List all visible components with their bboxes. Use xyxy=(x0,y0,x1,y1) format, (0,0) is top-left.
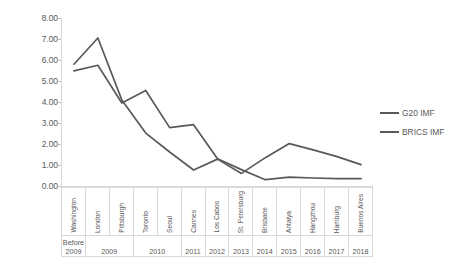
legend-swatch-brics-imf xyxy=(380,131,399,133)
y-axis-labels: 8.007.006.005.004.003.002.001.000.00 xyxy=(14,0,58,269)
y-axis-tick-label: 8.00 xyxy=(22,14,58,23)
y-axis-tick-label: 2.00 xyxy=(22,140,58,149)
x-axis-category-cell: Antalya xyxy=(277,188,301,236)
x-axis-category-cell: Seoul xyxy=(157,188,181,236)
x-axis-year-group-label: Before 2009 xyxy=(62,236,86,257)
series-line-g20-imf xyxy=(74,65,361,179)
y-axis-tick-label: 4.00 xyxy=(22,98,58,107)
x-axis-category-label: Toronto xyxy=(142,211,149,233)
category-label-row: WashingtonLondonPittsburghTorontoSeoulCa… xyxy=(62,188,373,236)
x-axis-category-label: Pittsburgh xyxy=(118,203,125,233)
y-axis-tick-mark xyxy=(58,18,61,19)
year-group-row: Before 200920092010201120122013201420152… xyxy=(62,236,373,257)
legend-label-g20-imf: G20 IMF xyxy=(402,109,435,118)
x-axis-year-group-label: 2009 xyxy=(85,236,133,257)
legend-label-brics-imf: BRICS IMF xyxy=(402,128,444,137)
x-axis-category-label: Hamburg xyxy=(333,206,340,233)
legend-item-brics-imf: BRICS IMF xyxy=(380,127,452,137)
x-axis-category-label: Hangzhou xyxy=(309,203,316,233)
x-axis-category-cell: Pittsburgh xyxy=(109,188,133,236)
x-axis-category-label: Los Cabos xyxy=(213,201,220,233)
x-axis-category-cell: London xyxy=(85,188,109,236)
x-axis-category-label: Seoul xyxy=(166,216,173,233)
line-chart: 8.007.006.005.004.003.002.001.000.00 Was… xyxy=(0,0,452,269)
legend: G20 IMF BRICS IMF xyxy=(380,108,452,146)
plot-area xyxy=(62,18,373,186)
x-axis-category-table: WashingtonLondonPittsburghTorontoSeoulCa… xyxy=(61,187,373,257)
x-axis-year-group-label: 2018 xyxy=(349,236,373,257)
y-axis-tick-mark xyxy=(58,39,61,40)
series-line-brics-imf xyxy=(74,38,361,173)
x-axis-category-cell: Toronto xyxy=(133,188,157,236)
y-axis-tick-label: 6.00 xyxy=(22,56,58,65)
x-axis-category-cell: Buenos Aires xyxy=(349,188,373,236)
legend-swatch-g20-imf xyxy=(380,112,399,114)
x-axis-category-cell: Washington xyxy=(62,188,86,236)
x-axis-year-group-label: 2015 xyxy=(277,236,301,257)
y-axis-tick-mark xyxy=(58,123,61,124)
y-axis-tick-label: 7.00 xyxy=(22,35,58,44)
x-axis-year-group-label: 2011 xyxy=(181,236,205,257)
x-axis-year-group-label: 2012 xyxy=(205,236,229,257)
y-axis-tick-mark xyxy=(58,165,61,166)
x-axis-category-label: Cannes xyxy=(190,210,197,233)
x-axis-year-group-label: 2010 xyxy=(133,236,181,257)
y-axis-tick-mark xyxy=(58,186,61,187)
y-axis-tick-mark xyxy=(58,144,61,145)
x-axis-category-cell: Cannes xyxy=(181,188,205,236)
x-axis-category-label: St. Petersburg xyxy=(237,191,244,233)
x-axis-category-label: Buenos Aires xyxy=(357,194,364,233)
x-axis-year-group-label: 2016 xyxy=(301,236,325,257)
x-axis-year-group-label: 2014 xyxy=(253,236,277,257)
x-axis-year-group-label: 2013 xyxy=(229,236,253,257)
x-axis-category-cell: Hangzhou xyxy=(301,188,325,236)
legend-item-g20-imf: G20 IMF xyxy=(380,108,452,118)
x-axis-category-label: London xyxy=(94,211,101,233)
x-axis-category-cell: St. Petersburg xyxy=(229,188,253,236)
y-axis-tick-label: 1.00 xyxy=(22,161,58,170)
x-axis-category-label: Antalya xyxy=(285,211,292,233)
x-axis-category-label: Brisbane xyxy=(261,207,268,233)
y-axis-tick-mark xyxy=(58,81,61,82)
x-axis-category-cell: Brisbane xyxy=(253,188,277,236)
y-axis-tick-mark xyxy=(58,60,61,61)
x-axis-category-label: Washington xyxy=(70,198,77,233)
y-axis-tick-label: 3.00 xyxy=(22,119,58,128)
y-axis-tick-label: 5.00 xyxy=(22,77,58,86)
x-axis-year-group-label: 2017 xyxy=(325,236,349,257)
y-axis-tick-mark xyxy=(58,102,61,103)
series-svg xyxy=(62,18,373,186)
x-axis-category-cell: Los Cabos xyxy=(205,188,229,236)
y-axis-tick-label: 0.00 xyxy=(22,182,58,191)
x-axis-category-cell: Hamburg xyxy=(325,188,349,236)
